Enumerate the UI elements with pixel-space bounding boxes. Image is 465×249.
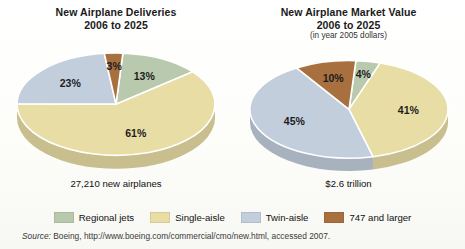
source-text: Boeing, http://www.boeing.com/commercial… (51, 231, 330, 241)
right-chart-title: New Airplane Market Value 2006 to 2025 (232, 0, 465, 31)
right-pie-chart: 4%41%45%10% (244, 52, 454, 174)
legend-swatch-icon (241, 212, 261, 223)
source-note: Source: Boeing, http://www.boeing.com/co… (22, 231, 330, 241)
right-title-line2: 2006 to 2025 (232, 19, 465, 32)
left-pie-chart: 13%61%23%3% (11, 44, 221, 172)
legend-item: 747 and larger (324, 212, 411, 223)
legend-item: Twin-aisle (241, 212, 309, 223)
pie-slice-label: 23% (60, 77, 82, 89)
figure-container: New Airplane Deliveries 2006 to 2025 13%… (0, 0, 465, 249)
left-chart-title: New Airplane Deliveries 2006 to 2025 (0, 0, 232, 31)
source-label: Source: (22, 231, 51, 241)
legend-item: Single-aisle (150, 212, 225, 223)
pie-slice-label: 4% (355, 68, 371, 80)
panel-deliveries: New Airplane Deliveries 2006 to 2025 13%… (0, 0, 232, 200)
left-title-line1: New Airplane Deliveries (56, 6, 177, 18)
legend-item-label: Regional jets (79, 212, 134, 223)
legend-item-label: 747 and larger (349, 212, 411, 223)
legend-item: Regional jets (54, 212, 134, 223)
right-chart-subtitle: (in year 2005 dollars) (232, 31, 465, 41)
legend-swatch-icon (54, 212, 74, 223)
pie-slice-label: 41% (397, 104, 419, 116)
pie-slice-label: 10% (322, 72, 344, 84)
panel-market-value: New Airplane Market Value 2006 to 2025 (… (232, 0, 465, 200)
left-title-line2: 2006 to 2025 (0, 19, 232, 32)
legend-swatch-icon (324, 212, 344, 223)
right-pie-caption: $2.6 trillion (232, 178, 465, 189)
pie-slice-label: 45% (283, 115, 305, 127)
pie-slice-label: 3% (107, 60, 123, 72)
legend-item-label: Single-aisle (175, 212, 225, 223)
left-pie-wrap: 13%61%23%3% (0, 44, 232, 174)
right-title-line1: New Airplane Market Value (281, 6, 417, 18)
pie-slice-label: 61% (125, 127, 147, 139)
chart-legend: Regional jetsSingle-aisleTwin-aisle747 a… (0, 206, 465, 228)
legend-item-label: Twin-aisle (266, 212, 309, 223)
pie-slice-label: 13% (134, 70, 156, 82)
pie-panels: New Airplane Deliveries 2006 to 2025 13%… (0, 0, 465, 200)
left-pie-caption: 27,210 new airplanes (0, 178, 232, 189)
legend-swatch-icon (150, 212, 170, 223)
right-pie-wrap: 4%41%45%10% (232, 52, 465, 174)
